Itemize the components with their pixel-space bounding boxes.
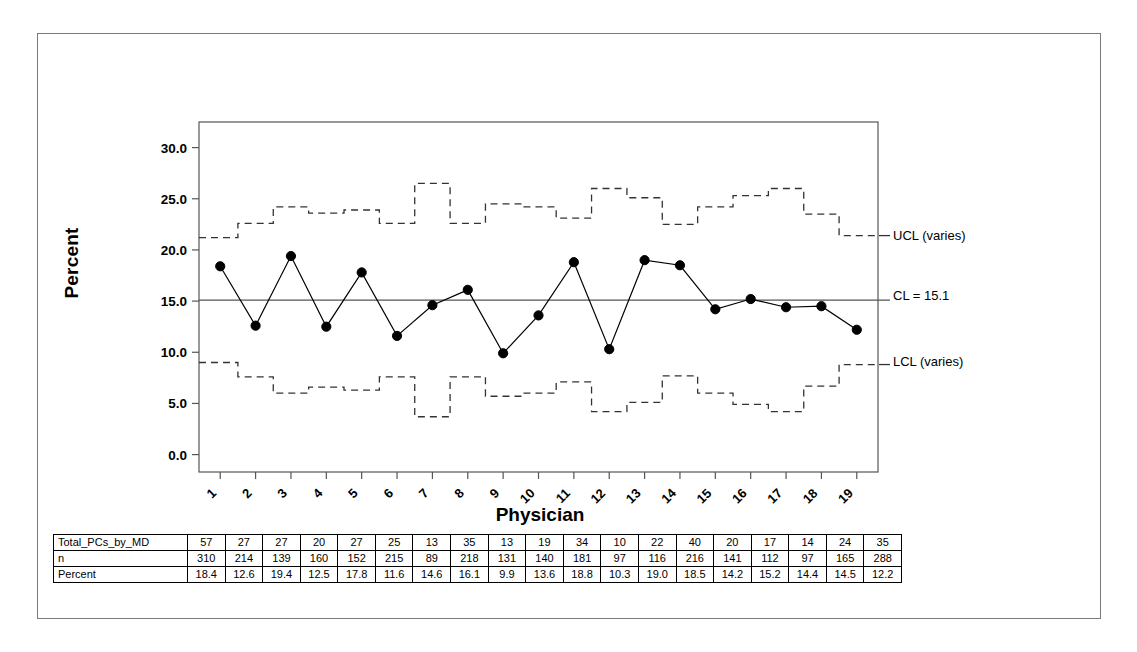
table-cell: 13.6 (526, 567, 564, 583)
table-cell: 165 (826, 551, 864, 567)
table-row-label: n (54, 551, 188, 567)
table-cell: 19.0 (638, 567, 676, 583)
table-cell: 22 (638, 535, 676, 551)
table-row: Percent18.412.619.412.517.811.614.616.19… (54, 567, 902, 583)
table-cell: 14.4 (789, 567, 827, 583)
annotation-ucl: UCL (varies) (893, 228, 965, 243)
x-axis-title: Physician (440, 504, 640, 526)
table-cell: 20 (714, 535, 752, 551)
table-cell: 20 (300, 535, 338, 551)
y-axis-title: Percent (61, 183, 83, 343)
table-cell: 215 (375, 551, 413, 567)
table-row: Total_PCs_by_MD5727272027251335131934102… (54, 535, 902, 551)
table-cell: 214 (225, 551, 263, 567)
table-cell: 216 (676, 551, 714, 567)
table-cell: 35 (864, 535, 902, 551)
page-frame (37, 33, 1101, 619)
annotation-lcl: LCL (varies) (893, 354, 963, 369)
table-cell: 27 (225, 535, 263, 551)
table-cell: 17 (751, 535, 789, 551)
table-cell: 116 (638, 551, 676, 567)
table-cell: 10.3 (601, 567, 639, 583)
table-cell: 15.2 (751, 567, 789, 583)
table-cell: 141 (714, 551, 752, 567)
table-cell: 18.4 (188, 567, 226, 583)
table-cell: 10 (601, 535, 639, 551)
table-cell: 9.9 (488, 567, 526, 583)
table-cell: 14 (789, 535, 827, 551)
table-cell: 27 (338, 535, 376, 551)
table-cell: 19.4 (263, 567, 301, 583)
table-cell: 140 (526, 551, 564, 567)
table-cell: 14.6 (413, 567, 451, 583)
table-cell: 112 (751, 551, 789, 567)
table-cell: 310 (188, 551, 226, 567)
table-row-label: Total_PCs_by_MD (54, 535, 188, 551)
data-table-body: Total_PCs_by_MD5727272027251335131934102… (54, 535, 902, 583)
table-cell: 18.8 (563, 567, 601, 583)
table-cell: 16.1 (451, 567, 489, 583)
table-cell: 11.6 (375, 567, 413, 583)
data-table: Total_PCs_by_MD5727272027251335131934102… (53, 534, 902, 583)
table-cell: 17.8 (338, 567, 376, 583)
table-cell: 19 (526, 535, 564, 551)
table-cell: 97 (789, 551, 827, 567)
table-cell: 35 (451, 535, 489, 551)
table-cell: 152 (338, 551, 376, 567)
table-cell: 18.5 (676, 567, 714, 583)
table-cell: 139 (263, 551, 301, 567)
table-cell: 218 (451, 551, 489, 567)
table-row: n310214139160152215892181311401819711621… (54, 551, 902, 567)
table-cell: 12.5 (300, 567, 338, 583)
table-cell: 12.2 (864, 567, 902, 583)
data-table-wrapper: Total_PCs_by_MD5727272027251335131934102… (53, 534, 902, 583)
table-cell: 34 (563, 535, 601, 551)
table-cell: 89 (413, 551, 451, 567)
table-cell: 27 (263, 535, 301, 551)
table-row-label: Percent (54, 567, 188, 583)
table-cell: 13 (488, 535, 526, 551)
table-cell: 14.5 (826, 567, 864, 583)
table-cell: 131 (488, 551, 526, 567)
table-cell: 40 (676, 535, 714, 551)
annotation-center-line: CL = 15.1 (893, 288, 949, 303)
table-cell: 160 (300, 551, 338, 567)
table-cell: 288 (864, 551, 902, 567)
table-cell: 181 (563, 551, 601, 567)
table-cell: 14.2 (714, 567, 752, 583)
table-cell: 57 (188, 535, 226, 551)
table-cell: 24 (826, 535, 864, 551)
table-cell: 13 (413, 535, 451, 551)
table-cell: 25 (375, 535, 413, 551)
table-cell: 12.6 (225, 567, 263, 583)
table-cell: 97 (601, 551, 639, 567)
